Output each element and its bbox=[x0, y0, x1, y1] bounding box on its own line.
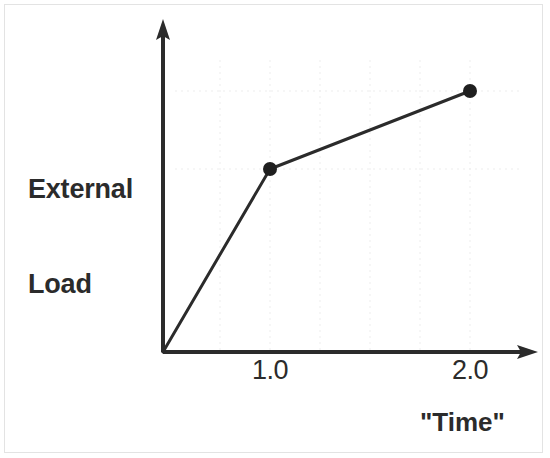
y-axis-label-line-1: External bbox=[28, 174, 156, 206]
y-axis-label-line-2: Load bbox=[28, 269, 156, 301]
x-axis-label: "Time" bbox=[420, 407, 505, 438]
y-axis-label: External Load bbox=[28, 110, 156, 365]
x-axis-tick-label: 1.0 bbox=[230, 355, 310, 386]
y-axis bbox=[156, 19, 170, 352]
series-polyline bbox=[163, 91, 470, 352]
gridlines bbox=[175, 60, 520, 350]
x-axis-tick-label: 2.0 bbox=[430, 355, 510, 386]
data-point-marker bbox=[463, 84, 477, 98]
figure-root: External Load 1.0 2.0 "Time" bbox=[0, 0, 550, 458]
data-point-marker bbox=[263, 162, 277, 176]
